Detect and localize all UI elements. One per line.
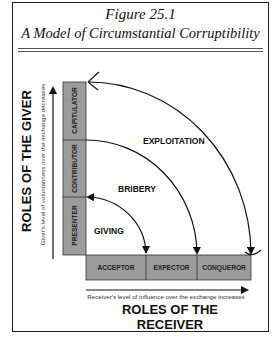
role-capitulator: CAPITULATOR xyxy=(71,82,78,140)
giver-axis-subtitle: Giver's level of voluntariness over the … xyxy=(39,79,46,251)
role-presenter: PRESENTER xyxy=(71,197,78,255)
bribery-label: BRIBERY xyxy=(118,184,156,194)
role-expector: EXPECTOR xyxy=(146,264,197,271)
giver-axis-title: ROLES OF THE GIVER xyxy=(19,95,34,232)
role-acceptor: ACCEPTOR xyxy=(86,264,146,271)
giving-label: GIVING xyxy=(94,226,124,236)
receiver-axis-subtitle: Receiver's level of influence over the e… xyxy=(76,293,256,300)
giving-arc xyxy=(88,197,146,253)
exploitation-label: EXPLOITATION xyxy=(143,136,205,146)
receiver-axis-title: ROLES OF THE RECEIVER xyxy=(90,302,250,332)
role-contributor: CONTRIBUTOR xyxy=(71,140,78,198)
role-conqueror: CONQUEROR xyxy=(197,264,251,271)
bribery-arc xyxy=(86,140,197,253)
